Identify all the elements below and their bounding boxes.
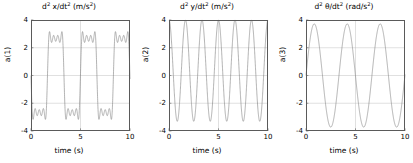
y-tick-a(2)-1: -2	[159, 99, 166, 107]
y-tick-a(2)-3: 2	[162, 44, 166, 52]
y-tick-a(1)-1: -2	[21, 99, 28, 107]
y-axis-label-atheta: a(3)	[278, 28, 287, 82]
plot-area-atheta: -4-2024 0510	[306, 20, 405, 131]
y-tick-a(3)-2: 0	[299, 72, 303, 80]
x-tick-a(3)-0: 0	[304, 133, 308, 141]
x-tick-a(1)-0: 0	[29, 133, 33, 141]
plot-title-atheta: d2 θ/dt2 (rad/s2)	[275, 2, 413, 12]
plot-title-ax: d2 x/dt2 (m/s2)	[0, 2, 138, 12]
y-axis-label-ay: a(2)	[141, 28, 150, 82]
plot-title-ay: d2 y/dt2 (m/s2)	[138, 2, 276, 12]
plot-panel-ax: d2 x/dt2 (m/s2) a(1) -4-2024 0510 time (…	[0, 0, 138, 163]
y-tick-a(1)-0: -4	[21, 127, 28, 135]
plot-area-ax: -4-2024 0510	[31, 20, 130, 131]
x-tick-a(2)-0: 0	[167, 133, 171, 141]
acceleration-figure: d2 x/dt2 (m/s2) a(1) -4-2024 0510 time (…	[0, 0, 413, 163]
x-tick-a(2)-1: 5	[216, 133, 220, 141]
x-axis-label-ax: time (s)	[0, 146, 138, 155]
plot-panel-ay: d2 y/dt2 (m/s2) a(2) -4-2024 0510 time (…	[138, 0, 276, 163]
y-tick-a(1)-4: 4	[24, 16, 28, 24]
x-tick-a(1)-1: 5	[78, 133, 82, 141]
y-tick-a(2)-0: -4	[159, 127, 166, 135]
y-tick-a(3)-0: -4	[296, 127, 303, 135]
y-tick-a(2)-4: 4	[162, 16, 166, 24]
x-tick-a(3)-2: 10	[401, 133, 410, 141]
y-tick-a(2)-2: 0	[162, 72, 166, 80]
x-axis-label-atheta: time (s)	[275, 146, 413, 155]
y-tick-a(1)-3: 2	[24, 44, 28, 52]
axes-frame-atheta	[306, 20, 405, 131]
plot-panel-atheta: d2 θ/dt2 (rad/s2) a(3) -4-2024 0510 time…	[275, 0, 413, 163]
axes-frame-ax	[31, 20, 130, 131]
y-tick-a(1)-2: 0	[24, 72, 28, 80]
y-tick-a(3)-1: -2	[296, 99, 303, 107]
plot-area-ay: -4-2024 0510	[169, 20, 268, 131]
x-tick-a(1)-2: 10	[126, 133, 135, 141]
y-axis-label-ax: a(1)	[3, 28, 12, 82]
x-tick-a(2)-2: 10	[264, 133, 273, 141]
y-tick-a(3)-3: 2	[299, 44, 303, 52]
axes-frame-ay	[169, 20, 268, 131]
x-axis-label-ay: time (s)	[138, 146, 276, 155]
y-tick-a(3)-4: 4	[299, 16, 303, 24]
x-tick-a(3)-1: 5	[353, 133, 357, 141]
